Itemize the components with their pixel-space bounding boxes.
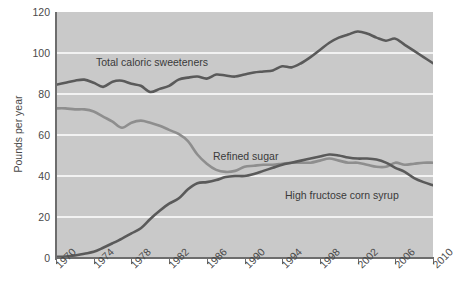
series-line-refined-sugar	[56, 108, 433, 172]
y-axis-title: Pounds per year	[12, 64, 24, 204]
series-label-total-caloric-sweeteners: Total caloric sweeteners	[96, 56, 208, 68]
y-tick-label: 0	[2, 253, 50, 263]
x-tick-label: 2010	[430, 245, 455, 270]
y-tick-label: 60	[2, 130, 50, 140]
series-label-refined-sugar: Refined sugar	[213, 150, 278, 162]
y-tick-label: 80	[2, 89, 50, 99]
y-tick-label: 40	[2, 171, 50, 181]
y-tick-label: 100	[2, 48, 50, 58]
series-line-high-fructose-corn-syrup	[56, 154, 433, 257]
y-tick-label: 120	[2, 7, 50, 17]
y-axis-line	[55, 12, 57, 260]
plot-svg	[56, 12, 433, 258]
y-tick-label: 20	[2, 212, 50, 222]
series-label-high-fructose-corn-syrup: High fructose corn syrup	[285, 189, 399, 201]
plot-area	[56, 12, 433, 258]
y-axis-ticks: 020406080100120	[0, 0, 50, 301]
